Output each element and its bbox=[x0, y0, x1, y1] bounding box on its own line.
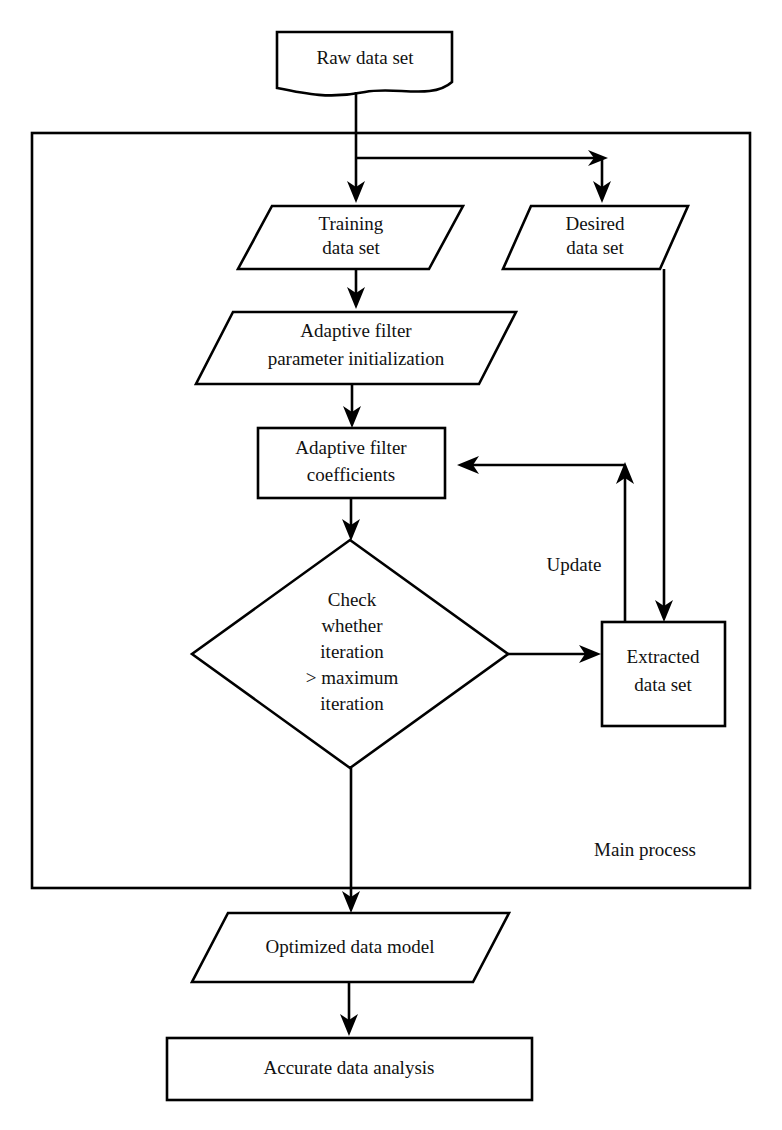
node-adaptive-filter-coefficients: Adaptive filter coefficients bbox=[258, 428, 445, 498]
node-extracted-data-set: Extracted data set bbox=[602, 622, 725, 726]
training-data-set-label-line1: Training bbox=[319, 213, 384, 234]
accurate-data-analysis-label: Accurate data analysis bbox=[264, 1057, 435, 1078]
node-desired-data-set: Desired data set bbox=[503, 206, 688, 269]
main-process-label: Main process bbox=[594, 839, 696, 860]
flowchart-canvas: Main process Raw data set Training data … bbox=[0, 0, 782, 1130]
training-data-set-label-line2: data set bbox=[322, 237, 380, 258]
check-iteration-label-line1: Check bbox=[328, 589, 377, 610]
node-check-iteration: Check whether iteration > maximum iterat… bbox=[192, 540, 508, 768]
node-training-data-set: Training data set bbox=[238, 206, 463, 269]
adaptive-filter-init-label-line1: Adaptive filter bbox=[300, 320, 412, 341]
update-edge-label: Update bbox=[547, 554, 602, 575]
adaptive-filter-coefficients-label-line1: Adaptive filter bbox=[295, 437, 407, 458]
adaptive-filter-coefficients-label-line2: coefficients bbox=[307, 464, 395, 485]
edge-init-to-coefficients bbox=[343, 384, 361, 428]
edge-decision-to-optimized bbox=[342, 768, 360, 913]
optimized-data-model-label: Optimized data model bbox=[266, 936, 435, 957]
check-iteration-label-line3: iteration bbox=[320, 641, 384, 662]
desired-data-set-label-line2: data set bbox=[566, 237, 624, 258]
edge-raw-to-split bbox=[347, 92, 611, 203]
flowchart-diagram: Main process Raw data set Training data … bbox=[0, 0, 782, 1130]
check-iteration-label-line4: > maximum bbox=[306, 667, 399, 688]
edge-desired-to-extracted bbox=[655, 269, 673, 622]
edge-optimized-to-accurate bbox=[340, 982, 358, 1036]
edge-update-feedback: Update bbox=[457, 456, 634, 622]
adaptive-filter-init-label-line2: parameter initialization bbox=[268, 348, 445, 369]
edge-coefficients-to-decision bbox=[342, 498, 360, 541]
edge-decision-to-extracted bbox=[508, 645, 601, 663]
node-raw-data-set: Raw data set bbox=[277, 32, 452, 95]
edge-training-to-init bbox=[347, 269, 365, 309]
node-adaptive-filter-parameter-initialization: Adaptive filter parameter initialization bbox=[196, 312, 516, 384]
check-iteration-label-line5: iteration bbox=[320, 693, 384, 714]
extracted-data-set-label-line2: data set bbox=[634, 674, 692, 695]
node-optimized-data-model: Optimized data model bbox=[192, 913, 509, 982]
extracted-data-set-label-line1: Extracted bbox=[627, 646, 700, 667]
check-iteration-label-line2: whether bbox=[321, 615, 383, 636]
node-accurate-data-analysis: Accurate data analysis bbox=[167, 1038, 532, 1100]
desired-data-set-label-line1: Desired bbox=[565, 213, 625, 234]
raw-data-set-label: Raw data set bbox=[316, 47, 414, 68]
